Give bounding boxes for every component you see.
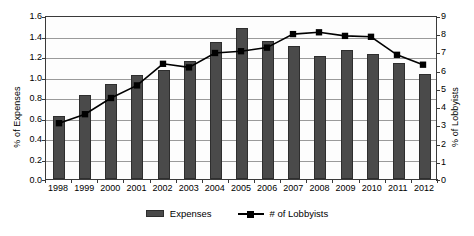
- y-axis-left-tick-label: 1.4: [29, 32, 42, 41]
- legend-label: # of Lobbyists: [270, 208, 329, 219]
- y-axis-right-tick-label: 1: [441, 157, 446, 166]
- legend-label: Expenses: [170, 208, 212, 219]
- x-axis-tickmark: [411, 179, 412, 183]
- y-axis-left-tick-label: 0.2: [29, 155, 42, 164]
- x-axis-tickmark: [202, 179, 203, 183]
- y-axis-right-tick-label: 6: [441, 66, 446, 75]
- y-axis-right-tickmark: [436, 163, 440, 164]
- line-marker-2001: [134, 82, 140, 88]
- x-axis-label-2009: 2009: [336, 183, 356, 193]
- line-marker-2005: [238, 48, 244, 54]
- x-axis-label-2012: 2012: [414, 183, 434, 193]
- y-axis-left-tick-label: 0.8: [29, 94, 42, 103]
- y-axis-left-tick-label: 1.6: [29, 12, 42, 21]
- y-axis-right-tickmark: [436, 108, 440, 109]
- x-axis-label-1999: 1999: [74, 183, 94, 193]
- x-axis-label-2011: 2011: [388, 183, 407, 193]
- line-series: [46, 17, 436, 179]
- y-axis-right-tickmark: [436, 53, 440, 54]
- line-marker-2004: [212, 50, 218, 56]
- legend-bar-swatch: [146, 210, 164, 217]
- x-axis-tickmark: [254, 179, 255, 183]
- y-axis-right-tickmark: [436, 126, 440, 127]
- y-axis-left-tick-label: 0.4: [29, 135, 42, 144]
- y-axis-right-tickmark: [436, 72, 440, 73]
- x-axis-tickmark: [228, 179, 229, 183]
- x-axis-label-2000: 2000: [100, 183, 120, 193]
- x-axis-tickmark: [306, 179, 307, 183]
- y-axis-right-tickmark: [436, 17, 440, 18]
- x-axis-tickmark: [280, 179, 281, 183]
- plot-area: [45, 16, 437, 180]
- line-marker-2002: [160, 61, 166, 67]
- chart-container: % of Expenses % of Lobbyists 1.61.41.21.…: [0, 0, 474, 236]
- line-marker-2008: [316, 29, 322, 35]
- x-axis-label-2004: 2004: [205, 183, 225, 193]
- y-axis-right-tickmark: [436, 145, 440, 146]
- line-marker-2009: [342, 33, 348, 39]
- y-axis-right-tick-label: 3: [441, 121, 446, 130]
- x-axis-tickmark: [385, 179, 386, 183]
- y-axis-left-tick-label: 0.0: [29, 176, 42, 185]
- y-axis-right-tick-label: 9: [441, 12, 446, 21]
- x-axis-tickmark: [150, 179, 151, 183]
- line-marker-2000: [108, 95, 114, 101]
- line-marker-2003: [186, 64, 192, 70]
- line-marker-2007: [290, 31, 296, 37]
- y-axis-left-tick-label: 1.0: [29, 73, 42, 82]
- line-marker-1998: [56, 120, 62, 126]
- y-axis-right-tick-label: 0: [441, 176, 446, 185]
- x-axis-label-2002: 2002: [153, 183, 173, 193]
- y-axis-right-tick-label: 2: [441, 139, 446, 148]
- x-axis-label-2006: 2006: [257, 183, 277, 193]
- y-axis-right-tick-label: 7: [441, 48, 446, 57]
- x-axis-label-2008: 2008: [309, 183, 329, 193]
- y-axis-right-tick-label: 5: [441, 84, 446, 93]
- y-axis-left-tick-label: 0.6: [29, 114, 42, 123]
- x-axis-tickmark: [176, 179, 177, 183]
- line-path: [59, 32, 423, 123]
- y-axis-right-tick-label: 8: [441, 30, 446, 39]
- x-axis-tickmark: [437, 179, 438, 183]
- x-axis-tickmark: [97, 179, 98, 183]
- x-axis-label-2005: 2005: [231, 183, 251, 193]
- x-axis-label-1998: 1998: [48, 183, 68, 193]
- y-axis-left-ticks: 1.61.41.21.00.80.60.40.20.0: [16, 16, 42, 180]
- x-axis-labels: 1998199920002001200220032004200520062007…: [45, 183, 437, 199]
- y-axis-right-tickmark: [436, 35, 440, 36]
- x-axis-tickmark: [123, 179, 124, 183]
- x-axis-label-2010: 2010: [362, 183, 382, 193]
- y-axis-right-tickmark: [436, 90, 440, 91]
- y-axis-left-tick-label: 1.2: [29, 53, 42, 62]
- legend-item-expenses[interactable]: Expenses: [146, 208, 212, 219]
- chart-legend: Expenses# of Lobbyists: [0, 208, 474, 219]
- line-marker-1999: [82, 111, 88, 117]
- x-axis-tickmark: [359, 179, 360, 183]
- legend-line-swatch: [238, 209, 264, 218]
- line-marker-2010: [368, 34, 374, 40]
- x-axis-label-2001: 2001: [126, 183, 146, 193]
- x-axis-tickmark: [71, 179, 72, 183]
- x-axis-tickmark: [45, 179, 46, 183]
- x-axis-tickmark: [332, 179, 333, 183]
- legend-square-marker-icon: [247, 211, 254, 218]
- line-marker-2011: [394, 52, 400, 58]
- y-axis-right-tick-label: 4: [441, 103, 446, 112]
- y-axis-right-ticks: 9876543210: [441, 16, 455, 180]
- legend-item-lobbyists[interactable]: # of Lobbyists: [238, 208, 329, 219]
- x-axis-label-2003: 2003: [179, 183, 199, 193]
- line-markers: [56, 29, 426, 126]
- x-axis-label-2007: 2007: [283, 183, 303, 193]
- line-marker-2012: [420, 62, 426, 68]
- line-marker-2006: [264, 44, 270, 50]
